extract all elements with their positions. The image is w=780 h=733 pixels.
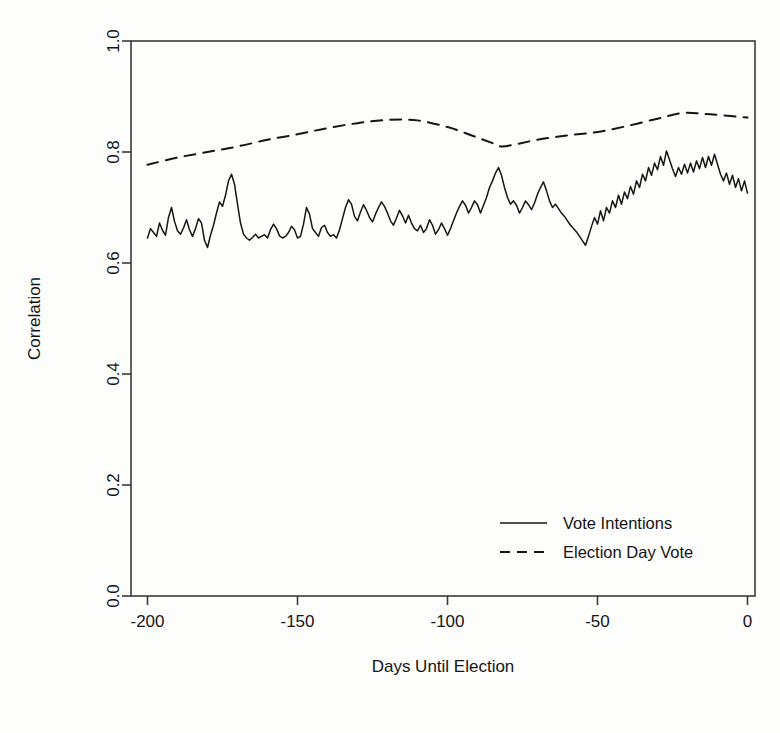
y-axis-tick-label: 0.0 xyxy=(104,584,123,608)
x-axis-tick-label: -50 xyxy=(585,612,610,631)
y-axis-title: Correlation xyxy=(25,277,44,360)
x-axis-tick-label: 0 xyxy=(743,612,752,631)
y-axis-tick-label: 0.4 xyxy=(104,362,123,386)
series-line-election-day-vote xyxy=(148,113,748,165)
plot-border xyxy=(131,41,755,596)
chart-figure: 0.00.20.40.60.81.0-200-150-100-500Days U… xyxy=(0,0,780,733)
y-axis-tick-label: 1.0 xyxy=(104,29,123,53)
chart-canvas: 0.00.20.40.60.81.0-200-150-100-500Days U… xyxy=(0,0,780,733)
legend-label: Vote Intentions xyxy=(563,514,672,532)
y-axis-tick-label: 0.2 xyxy=(104,473,123,497)
x-axis-title: Days Until Election xyxy=(372,657,515,676)
y-axis-tick-label: 0.6 xyxy=(104,251,123,275)
x-axis-tick-label: -150 xyxy=(280,612,314,631)
series-line-vote-intentions xyxy=(148,151,748,248)
x-axis-tick-label: -100 xyxy=(430,612,464,631)
x-axis-tick-label: -200 xyxy=(130,612,164,631)
y-axis-tick-label: 0.8 xyxy=(104,140,123,164)
legend-label: Election Day Vote xyxy=(563,543,693,561)
